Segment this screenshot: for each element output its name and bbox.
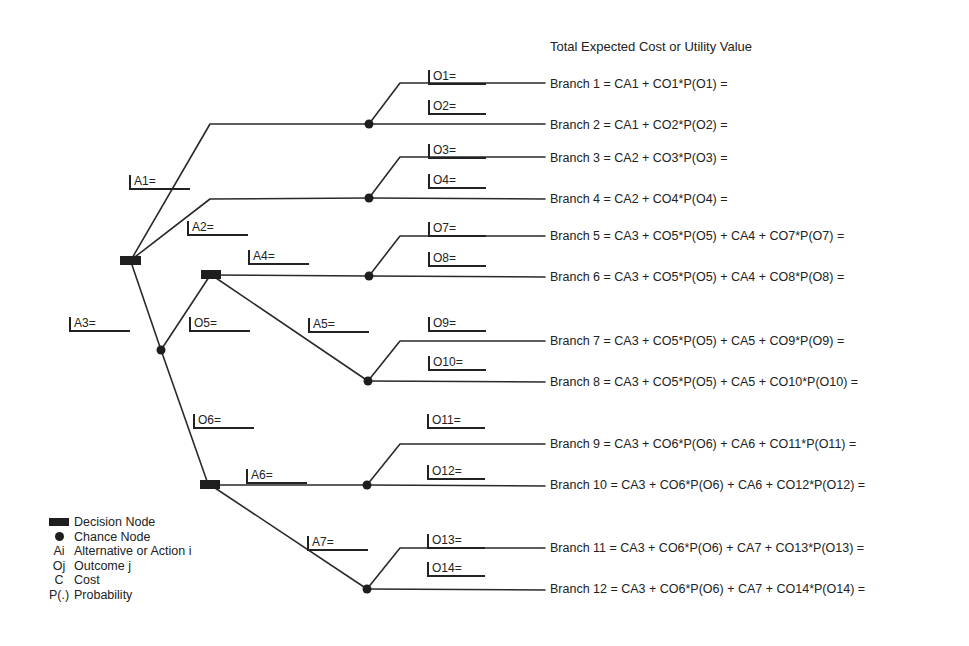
label-a4: A4=: [248, 250, 309, 265]
chance-node-1: [365, 120, 374, 129]
branch-4-formula: Branch 4 = CA2 + CO4*P(O4) =: [550, 192, 728, 206]
chance-node-5: [364, 377, 373, 386]
branch-5-formula: Branch 5 = CA3 + CO5*P(O5) + CA4 + CO7*P…: [550, 229, 844, 243]
decision-node-2: [201, 270, 221, 279]
edge-o5: [161, 274, 211, 350]
label-o12: O12=: [427, 465, 485, 480]
label-a1: A1=: [129, 175, 190, 190]
branch-6-formula: Branch 6 = CA3 + CO5*P(O5) + CA4 + CO8*P…: [550, 270, 844, 284]
label-a5: A5=: [308, 318, 369, 333]
label-a7: A7=: [307, 536, 368, 551]
chance-node-6: [363, 481, 372, 490]
label-o13: O13=: [427, 534, 485, 549]
diagram-title: Total Expected Cost or Utility Value: [550, 39, 752, 54]
label-a3: A3=: [69, 317, 130, 332]
branch-3-formula: Branch 3 = CA2 + CO3*P(O3) =: [550, 151, 728, 165]
edge-o10: [368, 381, 545, 382]
edge-a4: [211, 275, 369, 276]
legend-item-decision-node: Decision Node: [44, 515, 191, 530]
chance-node-7: [363, 585, 372, 594]
legend-item-alternative: Ai Alternative or Action i: [44, 544, 191, 559]
branch-1-formula: Branch 1 = CA1 + CO1*P(O1) =: [550, 77, 728, 91]
branch-2-formula: Branch 2 = CA1 + CO2*P(O2) =: [550, 118, 728, 132]
legend: Decision Node Chance Node Ai Alternative…: [44, 515, 191, 602]
branch-11-formula: Branch 11 = CA3 + CO6*P(O6) + CA7 + CO13…: [550, 541, 864, 555]
branch-12-formula: Branch 12 = CA3 + CO6*P(O6) + CA7 + CO14…: [550, 582, 865, 596]
edge-o4: [369, 198, 545, 199]
edge-o8: [369, 276, 545, 277]
label-o5: O5=: [189, 317, 250, 332]
label-o7: O7=: [428, 222, 486, 237]
label-o6: O6=: [193, 414, 254, 429]
edge-a1: [131, 124, 369, 260]
label-o10: O10=: [428, 356, 486, 371]
legend-item-probability: P(.) Probability: [44, 588, 191, 603]
label-a2: A2=: [187, 221, 248, 236]
edge-o14: [367, 589, 545, 590]
decision-node-icon: [49, 518, 69, 526]
edge-a3: [131, 262, 161, 350]
chance-node-4: [365, 272, 374, 281]
decision-node-3: [200, 480, 220, 489]
legend-item-outcome: Oj Outcome j: [44, 559, 191, 574]
label-o4: O4=: [428, 174, 486, 189]
chance-node-2: [365, 194, 374, 203]
label-o8: O8=: [428, 252, 486, 267]
branch-9-formula: Branch 9 = CA3 + CO6*P(O6) + CA6 + CO11*…: [550, 437, 856, 451]
label-o3: O3=: [428, 144, 486, 159]
chance-node-icon: [55, 532, 64, 541]
legend-item-chance-node: Chance Node: [44, 530, 191, 545]
label-o14: O14=: [427, 562, 485, 577]
branch-8-formula: Branch 8 = CA3 + CO5*P(O5) + CA5 + CO10*…: [550, 375, 858, 389]
branch-7-formula: Branch 7 = CA3 + CO5*P(O5) + CA5 + CO9*P…: [550, 334, 844, 348]
edge-o12: [367, 485, 545, 486]
label-o9: O9=: [428, 317, 486, 332]
label-a6: A6=: [246, 469, 307, 484]
chance-node-3: [157, 346, 166, 355]
label-o11: O11=: [427, 414, 485, 429]
branch-10-formula: Branch 10 = CA3 + CO6*P(O6) + CA6 + CO12…: [550, 478, 865, 492]
label-o2: O2=: [428, 100, 486, 115]
decision-node-root: [120, 256, 141, 265]
label-o1: O1=: [428, 70, 486, 85]
legend-item-cost: C Cost: [44, 573, 191, 588]
